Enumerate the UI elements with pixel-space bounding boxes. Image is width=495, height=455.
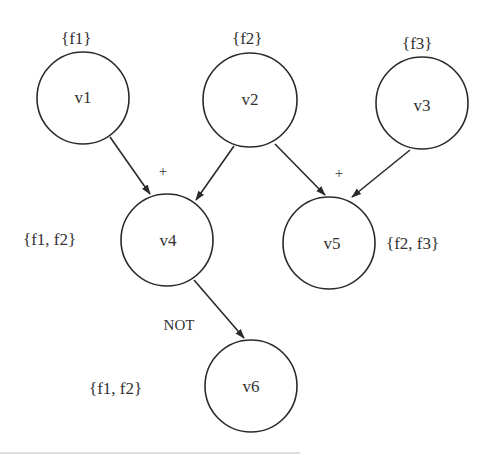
- operator-plus-v4: +: [159, 163, 167, 179]
- node-v1-label: v1: [75, 88, 92, 107]
- set-label-v4: {f1, f2}: [23, 230, 76, 249]
- set-label-v3: {f3}: [402, 34, 432, 53]
- node-v3: v3: [376, 57, 468, 149]
- edge-v2-v4: [196, 146, 234, 200]
- node-v6: v6: [205, 340, 297, 432]
- edge-v1-v4: [110, 137, 150, 194]
- node-v4-label: v4: [160, 231, 178, 250]
- node-v5-label: v5: [324, 234, 341, 253]
- node-v2-label: v2: [242, 90, 259, 109]
- set-label-v5: {f2, f3}: [386, 234, 439, 253]
- operator-not-v6: NOT: [164, 317, 195, 333]
- edge-v2-v5: [275, 144, 325, 195]
- operator-plus-v5: +: [335, 165, 343, 181]
- set-label-v2: {f2}: [232, 29, 262, 48]
- edge-v4-v6: [194, 280, 244, 338]
- node-v1: v1: [37, 52, 129, 144]
- node-v2: v2: [203, 53, 297, 147]
- diagram-canvas: v1 v2 v3 v4 v5 v6 {f1} {f2} {f3} {f1, f2…: [0, 0, 495, 455]
- set-label-v1: {f1}: [61, 29, 91, 48]
- node-v5: v5: [283, 197, 375, 289]
- set-label-v6: {f1, f2}: [89, 379, 142, 398]
- node-v4: v4: [121, 194, 213, 286]
- node-v6-label: v6: [243, 377, 260, 396]
- node-v3-label: v3: [414, 96, 431, 115]
- edge-v3-v5: [352, 150, 410, 197]
